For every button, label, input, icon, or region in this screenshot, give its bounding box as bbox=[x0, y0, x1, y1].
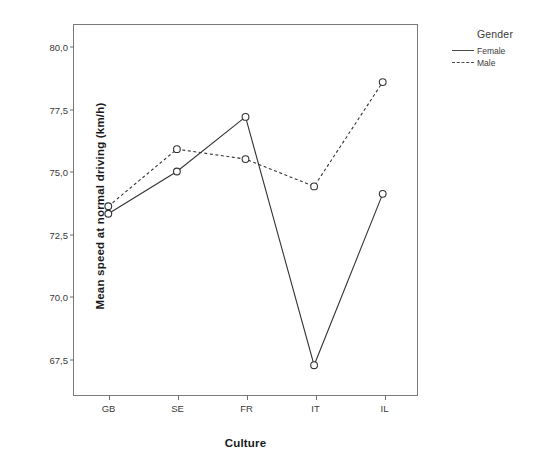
x-tick-label: FR bbox=[240, 403, 253, 414]
data-point-marker bbox=[174, 146, 181, 153]
legend-item-male[interactable]: Male bbox=[452, 58, 538, 68]
data-point-marker bbox=[379, 79, 386, 86]
legend-item-label: Male bbox=[477, 58, 495, 68]
x-tick-mark bbox=[385, 395, 386, 400]
x-tick-label: IL bbox=[381, 403, 389, 414]
x-tick-label: GB bbox=[102, 403, 116, 414]
data-point-marker bbox=[311, 362, 318, 369]
series-female bbox=[105, 114, 386, 369]
data-point-marker bbox=[105, 203, 112, 210]
x-tick-label: IT bbox=[311, 403, 319, 414]
x-tick-label: SE bbox=[171, 403, 184, 414]
data-point-marker bbox=[174, 168, 181, 175]
x-tick-mark bbox=[316, 395, 317, 400]
x-tick-mark bbox=[178, 395, 179, 400]
data-point-marker bbox=[311, 183, 318, 190]
data-point-marker bbox=[105, 210, 112, 217]
series-line bbox=[108, 117, 382, 365]
x-tick-mark bbox=[109, 395, 110, 400]
data-point-marker bbox=[242, 156, 249, 163]
legend: Gender FemaleMale bbox=[452, 28, 538, 70]
legend-item-label: Female bbox=[477, 46, 505, 56]
legend-line-swatch-icon bbox=[452, 62, 474, 64]
data-point-marker bbox=[242, 114, 249, 121]
legend-title: Gender bbox=[452, 28, 538, 40]
x-tick-mark bbox=[247, 395, 248, 400]
legend-line-swatch-icon bbox=[452, 50, 474, 52]
plot-area: Mean speed at normal driving (km/h) 80,0… bbox=[73, 24, 418, 396]
plot-series-layer bbox=[74, 25, 417, 395]
legend-entries: FemaleMale bbox=[452, 46, 538, 68]
x-axis-label: Culture bbox=[73, 437, 418, 449]
legend-item-female[interactable]: Female bbox=[452, 46, 538, 56]
data-point-marker bbox=[379, 190, 386, 197]
series-line bbox=[108, 82, 382, 206]
chart-figure: Mean speed at normal driving (km/h) 80,0… bbox=[0, 0, 539, 476]
